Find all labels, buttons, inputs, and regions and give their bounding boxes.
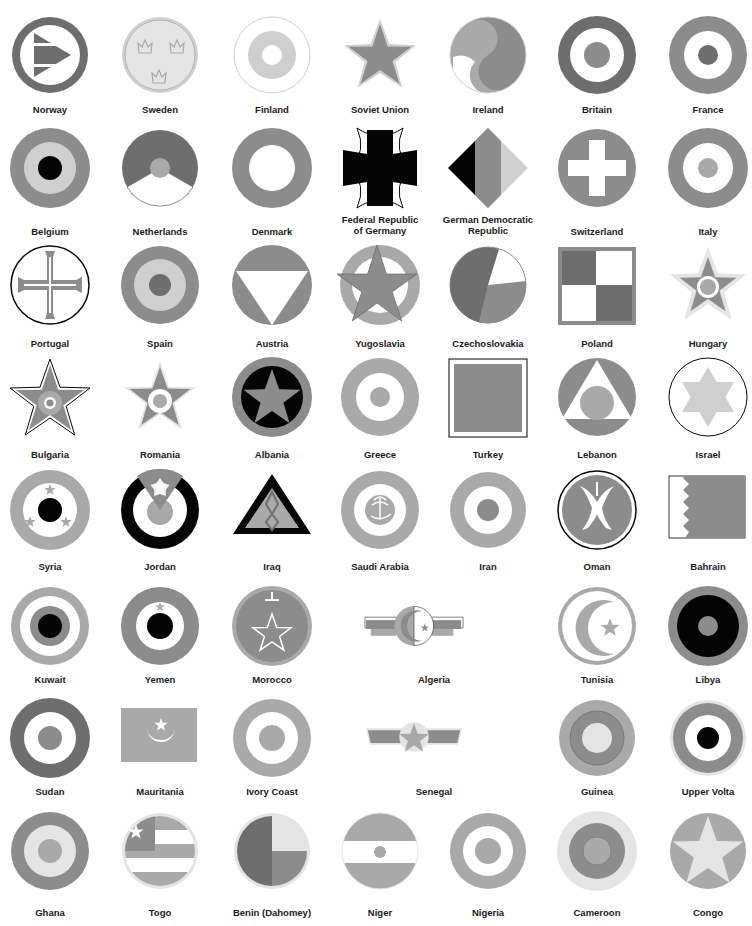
roundel-ireland: Ireland — [435, 7, 541, 119]
saudi-arabia-roundel-icon — [327, 462, 433, 558]
roundel-label: Yemen — [97, 674, 223, 685]
ivory-coast-roundel-icon — [219, 690, 325, 786]
portugal-roundel-icon — [0, 237, 103, 333]
upper-volta-roundel-icon — [655, 690, 752, 786]
roundel-label: Poland — [534, 338, 660, 349]
oman-roundel-icon — [544, 462, 650, 558]
denmark-roundel-icon — [219, 120, 325, 216]
roundel-label: Czechoslovakia — [425, 338, 551, 349]
roundel-label: Libya — [645, 674, 752, 685]
roundel-label: Romania — [97, 449, 223, 460]
syria-roundel-icon — [0, 462, 103, 558]
roundel-jordan: Jordan — [107, 462, 213, 574]
roundel-algeria: Algeria — [381, 578, 487, 690]
greece-roundel-icon — [327, 349, 433, 445]
roundel-niger: Niger — [327, 803, 433, 915]
cameroon-roundel-icon — [544, 803, 650, 899]
roundel-sweden: Sweden — [107, 7, 213, 119]
iran-roundel-icon — [435, 462, 541, 558]
switzerland-roundel-icon — [544, 120, 650, 216]
roundel-label: Britain — [534, 104, 660, 115]
roundel-label: Upper Volta — [645, 786, 752, 797]
congo-roundel-icon — [655, 803, 752, 899]
israel-roundel-icon — [655, 349, 752, 445]
roundel-yemen: Yemen — [107, 578, 213, 690]
turkey-roundel-icon — [435, 349, 541, 445]
german-democratic-republic-roundel-icon — [435, 120, 541, 216]
roundel-bahrain: Bahrain — [655, 462, 752, 574]
roundel-ivory-coast: Ivory Coast — [219, 690, 325, 802]
roundel-label: Oman — [534, 561, 660, 572]
roundel-label: Hungary — [645, 338, 752, 349]
roundel-romania: Romania — [107, 349, 213, 461]
mauritania-roundel-icon — [107, 690, 213, 786]
roundel-label: Bahrain — [645, 561, 752, 572]
yemen-roundel-icon — [107, 578, 213, 674]
bulgaria-roundel-icon — [0, 349, 103, 445]
roundel-label: Morocco — [209, 674, 335, 685]
roundel-italy: Italy — [655, 120, 752, 232]
roundel-soviet-union: Soviet Union — [327, 7, 433, 119]
czechoslovakia-roundel-icon — [435, 237, 541, 333]
roundel-switzerland: Switzerland — [544, 120, 650, 232]
roundel-sudan: Sudan — [0, 690, 103, 802]
roundel-czechoslovakia: Czechoslovakia — [435, 237, 541, 349]
roundel-label: Jordan — [97, 561, 223, 572]
roundel-label: Congo — [645, 907, 752, 918]
ireland-roundel-icon — [435, 7, 541, 103]
nigeria-roundel-icon — [435, 803, 541, 899]
roundel-label: Tunisia — [534, 674, 660, 685]
roundel-senegal: Senegal — [381, 690, 487, 802]
roundel-federal-republic-of-germany: Federal Republicof Germany — [327, 120, 433, 232]
roundel-denmark: Denmark — [219, 120, 325, 232]
roundel-morocco: Morocco — [219, 578, 325, 690]
spain-roundel-icon — [107, 237, 213, 333]
roundel-label: German DemocraticRepublic — [425, 214, 551, 236]
roundel-hungary: Hungary — [655, 237, 752, 349]
roundel-label: Lebanon — [534, 449, 660, 460]
roundel-upper-volta: Upper Volta — [655, 690, 752, 802]
roundel-greece: Greece — [327, 349, 433, 461]
kuwait-roundel-icon — [0, 578, 103, 674]
niger-roundel-icon — [327, 803, 433, 899]
roundel-netherlands: Netherlands — [107, 120, 213, 232]
iraq-roundel-icon — [219, 462, 325, 558]
togo-roundel-icon — [107, 803, 213, 899]
roundel-label: Guinea — [534, 786, 660, 797]
finland-roundel-icon — [219, 7, 325, 103]
soviet-union-roundel-icon — [327, 7, 433, 103]
roundel-label: France — [645, 104, 752, 115]
roundel-cameroon: Cameroon — [544, 803, 650, 915]
roundel-spain: Spain — [107, 237, 213, 349]
austria-roundel-icon — [219, 237, 325, 333]
netherlands-roundel-icon — [107, 120, 213, 216]
roundel-lebanon: Lebanon — [544, 349, 650, 461]
italy-roundel-icon — [655, 120, 752, 216]
roundel-nigeria: Nigeria — [435, 803, 541, 915]
romania-roundel-icon — [107, 349, 213, 445]
roundel-belgium: Belgium — [0, 120, 103, 232]
roundel-oman: Oman — [544, 462, 650, 574]
roundel-label: Togo — [97, 907, 223, 918]
morocco-roundel-icon — [219, 578, 325, 674]
roundel-albania: Albania — [219, 349, 325, 461]
roundel-label: Iran — [425, 561, 551, 572]
benin-dahomey-roundel-icon — [219, 803, 325, 899]
roundel-label: Mauritania — [97, 786, 223, 797]
roundel-mauritania: Mauritania — [107, 690, 213, 802]
roundel-turkey: Turkey — [435, 349, 541, 461]
roundel-israel: Israel — [655, 349, 752, 461]
libya-roundel-icon — [655, 578, 752, 674]
britain-roundel-icon — [544, 7, 650, 103]
federal-republic-of-germany-roundel-icon — [327, 120, 433, 216]
roundel-syria: Syria — [0, 462, 103, 574]
roundel-togo: Togo — [107, 803, 213, 915]
ghana-roundel-icon — [0, 803, 103, 899]
roundel-britain: Britain — [544, 7, 650, 119]
roundel-german-democratic-republic: German DemocraticRepublic — [435, 120, 541, 232]
roundel-label: Cameroon — [534, 907, 660, 918]
roundel-congo: Congo — [655, 803, 752, 915]
roundel-tunisia: Tunisia — [544, 578, 650, 690]
roundel-iraq: Iraq — [219, 462, 325, 574]
hungary-roundel-icon — [655, 237, 752, 333]
